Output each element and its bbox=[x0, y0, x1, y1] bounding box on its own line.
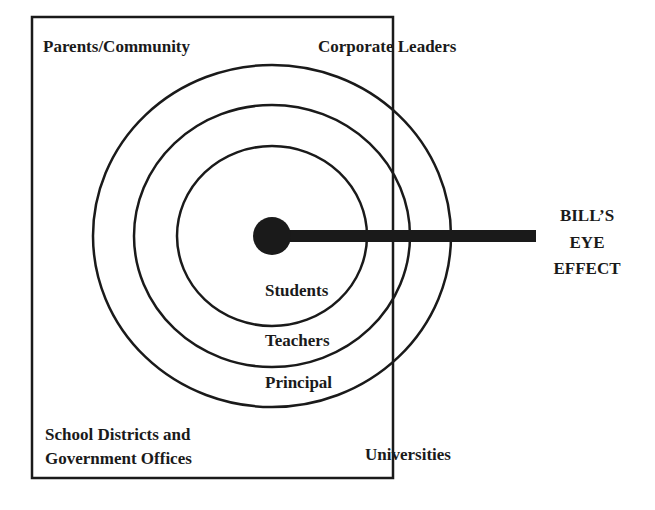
label-bills-eye-line3: EFFECT bbox=[542, 258, 632, 280]
label-school-districts-line1: School Districts and bbox=[45, 424, 190, 446]
label-school-districts-line2: Government Offices bbox=[45, 448, 192, 470]
label-bills-eye-line1: BILL’S bbox=[542, 205, 632, 227]
bulls-eye-dot bbox=[253, 217, 291, 255]
label-corporate-leaders: Corporate Leaders bbox=[318, 36, 456, 58]
label-universities: Universities bbox=[365, 444, 451, 466]
outer-frame bbox=[32, 17, 393, 478]
label-principal: Principal bbox=[265, 372, 332, 394]
label-bills-eye-line2: EYE bbox=[542, 232, 632, 254]
label-teachers: Teachers bbox=[265, 330, 330, 352]
label-parents-community: Parents/Community bbox=[43, 36, 190, 58]
pointer-bar bbox=[272, 230, 536, 242]
label-students: Students bbox=[265, 280, 328, 302]
